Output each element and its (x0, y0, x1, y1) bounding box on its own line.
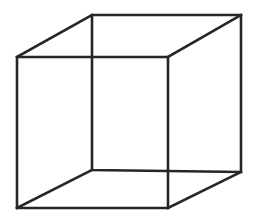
cube-connector-top-right-edge (168, 15, 241, 57)
cube-connector-bottom-left-edge (17, 170, 92, 208)
cube-back-face-edge (92, 15, 241, 172)
cube-connector-top-left-edge (17, 15, 92, 57)
cube-connector-bottom-right-edge (168, 172, 241, 208)
figure-canvas (0, 0, 254, 224)
necker-cube-drawing (0, 0, 254, 224)
